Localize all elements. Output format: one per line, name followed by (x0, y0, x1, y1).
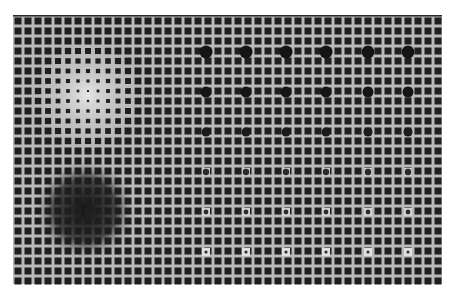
grid-square (25, 158, 32, 165)
grid-square (55, 208, 62, 215)
grid-square (265, 278, 272, 285)
grid-square (165, 148, 172, 155)
grid-square (155, 88, 162, 95)
grid-square (285, 18, 292, 25)
grid-square (45, 118, 51, 124)
grid-square (85, 158, 92, 165)
grid-square (245, 98, 252, 105)
grid-square (415, 18, 422, 25)
grid-square (105, 278, 112, 285)
grid-square (395, 78, 402, 85)
grid-square (345, 228, 352, 235)
grid-square (165, 138, 172, 145)
grid-square (35, 198, 42, 205)
grid-square (385, 268, 392, 275)
grid-square (225, 178, 232, 185)
grid-square (405, 268, 412, 275)
grid-square (165, 98, 172, 105)
grid-square (155, 278, 162, 285)
grid-square (425, 18, 432, 25)
grid-square (275, 108, 282, 115)
grid-square (355, 28, 362, 35)
grid-square (185, 38, 192, 45)
grid-square (405, 148, 412, 155)
grid-square (35, 218, 42, 225)
grid-square (245, 268, 252, 275)
grid-square (425, 178, 432, 185)
grid-square (55, 268, 62, 275)
grid-square (145, 68, 152, 75)
grid-square (45, 108, 51, 114)
grid-square (235, 28, 242, 35)
grid-square (175, 188, 182, 195)
grid-square (425, 128, 432, 135)
grid-square (355, 38, 362, 45)
grid-square (435, 68, 442, 75)
grid-square (315, 108, 322, 115)
grid-square (295, 188, 302, 195)
grid-square (135, 148, 142, 155)
grid-square (45, 98, 51, 104)
grid-square (395, 28, 402, 35)
grid-square (395, 198, 402, 205)
grid-square (95, 178, 102, 185)
grid-square (425, 48, 432, 55)
grid-square (265, 38, 272, 45)
grid-square (25, 198, 32, 205)
grid-square (75, 178, 82, 185)
grid-square (195, 178, 202, 185)
grid-square (96, 119, 101, 124)
grid-square (165, 178, 172, 185)
grid-square (355, 208, 362, 215)
grid-square (435, 88, 442, 95)
grid-square (205, 158, 212, 165)
grid-square (65, 228, 72, 235)
grid-square (155, 58, 162, 65)
grid-square (165, 238, 172, 245)
grid-square (265, 58, 272, 65)
grid-square (335, 238, 342, 245)
grid-square (245, 178, 252, 185)
circle-dot-row-4 (204, 210, 209, 215)
grid-square (425, 58, 432, 65)
grid-square (115, 248, 122, 255)
grid-square (255, 238, 262, 245)
grid-square (215, 118, 222, 125)
grid-square (185, 258, 192, 265)
grid-square (45, 228, 52, 235)
grid-square (325, 198, 332, 205)
grid-square (295, 88, 302, 95)
grid-square (85, 138, 91, 144)
grid-square (95, 278, 102, 285)
grid-square (335, 168, 342, 175)
grid-square (95, 238, 102, 245)
grid-square (335, 18, 342, 25)
grid-square (175, 138, 182, 145)
grid-square (135, 168, 142, 175)
grid-square (315, 148, 322, 155)
grid-square (285, 178, 292, 185)
grid-square (405, 138, 412, 145)
grid-square (415, 158, 422, 165)
grid-square (95, 28, 102, 35)
grid-square (15, 188, 22, 195)
grid-square (15, 248, 22, 255)
grid-square (66, 79, 70, 83)
grid-square (115, 38, 122, 45)
grid-square (365, 18, 372, 25)
grid-square (435, 118, 442, 125)
grid-square (375, 118, 382, 125)
grid-square (435, 48, 442, 55)
grid-square (265, 218, 272, 225)
grid-square (25, 168, 32, 175)
grid-square (185, 28, 192, 35)
grid-square (265, 148, 272, 155)
grid-square (85, 238, 92, 245)
grid-square (235, 198, 242, 205)
grid-square (295, 118, 302, 125)
grid-square (25, 268, 32, 275)
grid-square (285, 28, 292, 35)
grid-square (365, 158, 372, 165)
grid-square (425, 268, 432, 275)
grid-square (105, 128, 111, 134)
